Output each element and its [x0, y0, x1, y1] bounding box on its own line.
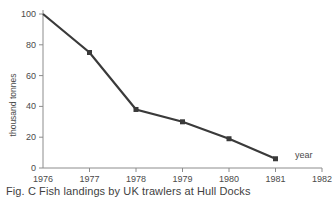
- y-axis-ticks: [39, 14, 43, 168]
- y-axis-title: thousand tonnes: [8, 70, 18, 140]
- x-axis-tick-label: 1981: [256, 174, 296, 184]
- figure-container: 020406080100 197619771978197919801981198…: [0, 0, 336, 203]
- y-axis-tick-label: 80: [10, 40, 36, 50]
- x-axis-tick-label: 1976: [23, 174, 63, 184]
- chart-plot-area: 020406080100 197619771978197919801981198…: [0, 0, 336, 178]
- chart-axes: [43, 10, 322, 168]
- data-point-marker: [273, 156, 278, 161]
- y-axis-tick-label: 100: [10, 9, 36, 19]
- x-axis-ticks: [90, 168, 323, 172]
- line-chart-svg: [0, 0, 336, 178]
- x-axis-tick-label: 1977: [70, 174, 110, 184]
- data-point-markers: [87, 50, 278, 161]
- figure-caption: Fig. C Fish landings by UK trawlers at H…: [6, 184, 251, 198]
- x-axis-tick-label: 1979: [163, 174, 203, 184]
- x-axis-tick-label: 1980: [209, 174, 249, 184]
- data-series-line: [43, 14, 276, 159]
- x-axis-tick-label: 1982: [302, 174, 336, 184]
- data-point-marker: [134, 107, 139, 112]
- data-point-marker: [87, 50, 92, 55]
- data-point-marker: [227, 136, 232, 141]
- x-axis-title: year: [295, 150, 313, 160]
- y-axis-tick-label: 0: [10, 163, 36, 173]
- data-point-marker: [180, 119, 185, 124]
- x-axis-tick-label: 1978: [116, 174, 156, 184]
